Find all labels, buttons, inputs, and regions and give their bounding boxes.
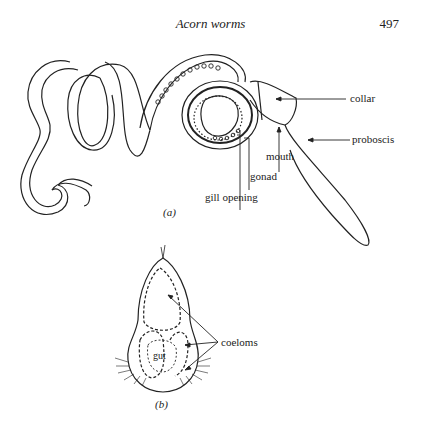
- label-coeloms: coeloms: [221, 336, 258, 348]
- acorn-worm-illustration-b: [0, 0, 421, 421]
- label-gut: gut: [153, 350, 166, 361]
- caption-b: (b): [155, 398, 168, 410]
- label-mouth: mouth: [266, 150, 294, 162]
- label-gonad: gonad: [250, 170, 277, 182]
- caption-a: (a): [163, 206, 176, 218]
- label-proboscis: proboscis: [352, 133, 394, 145]
- label-gill-opening: gill opening: [205, 191, 258, 203]
- label-collar: collar: [350, 92, 375, 104]
